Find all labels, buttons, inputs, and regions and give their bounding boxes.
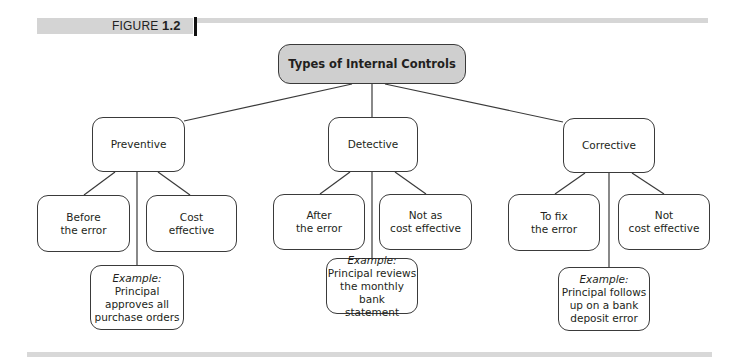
example-heading: Example: — [347, 254, 396, 267]
preventive-label: Preventive — [111, 138, 167, 151]
detective-timing-node: After the error — [273, 194, 365, 250]
node-text-line: up on a bank — [570, 299, 639, 312]
node-text-line: Not as — [409, 209, 443, 222]
node-text-line: To fix — [540, 210, 567, 223]
figure-bottom-rule — [27, 352, 712, 357]
node-text-line: Principal follows — [562, 286, 647, 299]
node-text-line: purchase orders — [94, 311, 179, 324]
preventive-cost-node: Cost effective — [146, 195, 237, 252]
detective-example-node: Example: Principal reviews the monthly b… — [326, 258, 418, 314]
example-heading: Example: — [579, 273, 628, 286]
root-label: Types of Internal Controls — [288, 58, 455, 71]
node-text-line: Cost — [180, 211, 203, 224]
node-text-line: approves all — [105, 298, 169, 311]
node-text-line: After — [306, 209, 331, 222]
node-text-line: cost effective — [629, 222, 700, 235]
node-text-line: Not — [655, 209, 673, 222]
detective-node: Detective — [328, 117, 418, 172]
example-heading: Example: — [112, 272, 161, 285]
node-text-line: cost effective — [390, 222, 461, 235]
preventive-timing-node: Before the error — [37, 195, 130, 252]
node-text-line: the error — [296, 222, 342, 235]
preventive-node: Preventive — [92, 117, 185, 172]
node-text-line: the monthly bank — [327, 280, 417, 306]
corrective-example-node: Example: Principal follows up on a bank … — [558, 267, 650, 331]
node-text-line: Principal — [115, 285, 160, 298]
detective-cost-node: Not as cost effective — [379, 194, 472, 250]
node-text-line: the error — [61, 224, 107, 237]
node-text-line: Principal reviews — [328, 267, 416, 280]
corrective-timing-node: To fix the error — [508, 194, 600, 251]
corrective-cost-node: Not cost effective — [618, 194, 710, 250]
node-text-line: Before — [66, 211, 100, 224]
root-node: Types of Internal Controls — [278, 44, 466, 84]
detective-label: Detective — [348, 138, 399, 151]
node-text-line: statement — [345, 306, 399, 319]
preventive-example-node: Example: Principal approves all purchase… — [90, 265, 184, 330]
node-text-line: deposit error — [570, 312, 637, 325]
node-text-line: effective — [169, 224, 215, 237]
corrective-label: Corrective — [582, 139, 636, 152]
node-text-line: the error — [531, 223, 577, 236]
corrective-node: Corrective — [563, 118, 655, 173]
